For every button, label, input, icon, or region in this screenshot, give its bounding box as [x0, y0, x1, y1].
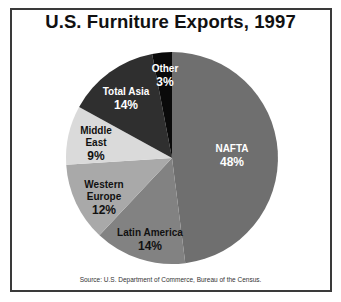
pie-chart: NAFTA48%Latin America14%WesternEurope12%…	[0, 0, 341, 302]
source-note: Source: U.S. Department of Commerce, Bur…	[0, 276, 341, 283]
slice-label-nafta: NAFTA48%	[215, 143, 248, 169]
